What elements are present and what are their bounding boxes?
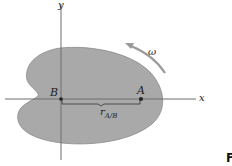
figure-label-fragment: F: [226, 151, 232, 165]
y-axis-label: y: [58, 0, 64, 10]
point-B-marker: [59, 97, 63, 101]
point-A-label: A: [137, 85, 145, 96]
point-A-marker: [139, 97, 143, 101]
rigid-body-diagram: y x B A ω rA/B F: [0, 0, 232, 166]
point-B-label: B: [50, 87, 58, 98]
relative-position-label: rA/B: [100, 107, 117, 120]
omega-label: ω: [148, 47, 156, 57]
diagram-svg: [0, 0, 232, 166]
relative-position-subscript: A/B: [105, 112, 118, 120]
x-axis-label: x: [199, 93, 205, 103]
